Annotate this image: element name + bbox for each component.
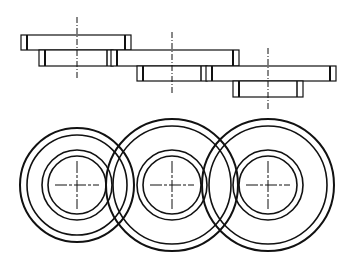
drawing-canvas (0, 0, 353, 266)
top-plate (206, 66, 336, 81)
top-plate (111, 50, 239, 66)
elevation-view (21, 17, 336, 111)
flange-2-plan (106, 119, 238, 251)
flange-drawing (0, 0, 353, 266)
flange-1-plan (20, 128, 134, 242)
top-plate (21, 35, 131, 50)
flange-3-plan (202, 119, 334, 251)
flange-1-elevation (21, 17, 131, 80)
plan-view (20, 119, 334, 251)
boss (39, 50, 113, 66)
